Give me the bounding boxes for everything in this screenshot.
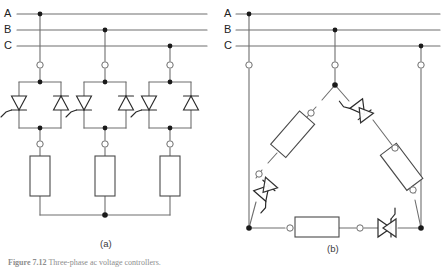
terminal-b-drop-a <box>246 62 252 68</box>
terminal-leg-tr-2 <box>410 187 416 193</box>
phase-label-c-right: C <box>224 39 232 51</box>
leg-tl-seg1 <box>322 85 335 100</box>
vertex-top <box>332 82 338 88</box>
figure-caption: Figure 7.12 Three-phase ac voltage contr… <box>8 258 428 267</box>
junction-b-bus-c <box>419 44 424 49</box>
figure-caption-label: Figure 7.12 <box>8 258 47 267</box>
subcaption-a: (a) <box>100 238 112 249</box>
terminal-b-drop-c <box>418 62 424 68</box>
delta-load-resistor-left <box>271 111 315 157</box>
subcaption-b: (b) <box>327 243 339 254</box>
phase-label-c-left: C <box>4 39 12 51</box>
leg-tr-seg2 <box>373 120 392 145</box>
figure-caption-text: Three-phase ac voltage controllers. <box>48 258 160 267</box>
vertex-bottom-right <box>418 225 424 231</box>
leg-tr-seg1 <box>335 85 349 101</box>
delta-scr-bot-gate <box>391 208 395 219</box>
terminal-b-drop-b <box>332 62 338 68</box>
terminal-leg-tl-2 <box>256 171 262 177</box>
phase-label-a-right: A <box>224 7 231 19</box>
junction-b-bus-a <box>247 12 252 17</box>
junction-b-bus-b <box>333 28 338 33</box>
leg-tr-seg5 <box>415 200 421 228</box>
terminal-leg-tl-1 <box>308 110 314 116</box>
phase-label-b-right: B <box>224 23 231 35</box>
terminal-leg-bb-1 <box>287 225 293 231</box>
delta-scr-bot-reverse <box>383 219 396 237</box>
delta-load-resistor-bottom <box>295 217 339 237</box>
leg-tl-seg5 <box>249 202 256 228</box>
phase-label-b-left: B <box>4 23 11 35</box>
delta-load-resistor-right <box>380 143 422 190</box>
terminal-leg-bb-2 <box>357 225 363 231</box>
phase-label-a-left: A <box>4 7 11 19</box>
leg-tl-seg3 <box>268 153 277 163</box>
diagram-b-canvas <box>0 0 446 270</box>
delta-scr-bl-gate <box>258 201 269 213</box>
vertex-bottom-left <box>246 225 252 231</box>
figure-container: A B C A B C (a) (b) Figure 7.12 Three-ph… <box>0 0 446 270</box>
terminal-leg-tr-1 <box>392 145 398 151</box>
